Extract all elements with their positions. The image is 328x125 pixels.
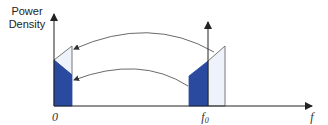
- upper-mapping-arrow: [74, 33, 214, 52]
- lower-mapping-arrow: [74, 69, 188, 86]
- y-axis-label-power: Power: [11, 5, 43, 17]
- passband-light-region: [208, 46, 225, 106]
- origin-label: 0: [52, 110, 58, 124]
- x-axis-label: f: [310, 110, 315, 124]
- y-axis-label-density: Density: [9, 18, 46, 30]
- frequency-shift-diagram: Power Density 0 f0 f: [0, 0, 328, 125]
- passband-dark-region: [189, 61, 208, 106]
- carrier-frequency-label: f0: [201, 110, 208, 125]
- passband-spectrum: [189, 46, 225, 106]
- baseband-spectrum: [54, 46, 72, 106]
